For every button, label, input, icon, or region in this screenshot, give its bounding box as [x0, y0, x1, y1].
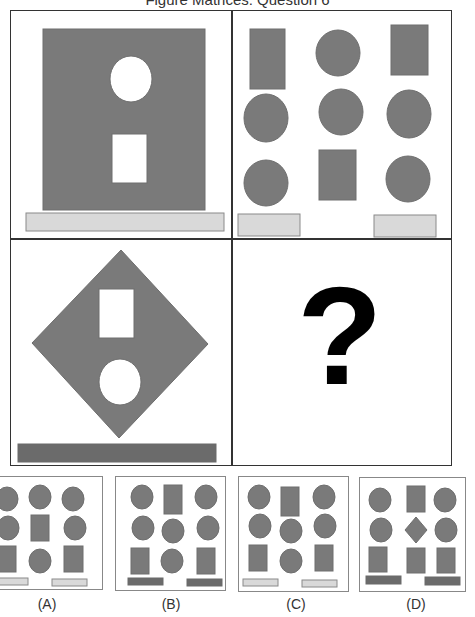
- polygon-shape: [405, 517, 427, 543]
- page-title: Figure Matrices: Question 6: [0, 0, 475, 8]
- bar-shape: [18, 444, 216, 462]
- bar-shape: [302, 580, 337, 587]
- ellipse-shape: [244, 94, 288, 142]
- option-c[interactable]: [238, 476, 349, 592]
- ellipse-shape: [280, 519, 302, 543]
- ellipse-shape: [195, 485, 217, 509]
- option-a[interactable]: [0, 476, 103, 590]
- bar-shape: [243, 579, 278, 586]
- option-figure: [116, 477, 227, 592]
- ellipse-shape: [29, 485, 51, 509]
- bar-shape: [26, 213, 224, 231]
- cell-figure: [11, 240, 231, 465]
- option-d-label[interactable]: (D): [396, 596, 436, 612]
- question-mark-icon: ?: [297, 266, 383, 406]
- ellipse-shape: [62, 487, 84, 511]
- rect-shape: [407, 548, 425, 573]
- bar-shape: [374, 215, 436, 237]
- ellipse-shape: [64, 516, 86, 540]
- ellipse-shape: [132, 516, 154, 540]
- ellipse-shape: [0, 516, 19, 540]
- ellipse-shape: [313, 485, 335, 509]
- ellipse-shape: [386, 156, 430, 202]
- ellipse-shape: [316, 30, 360, 76]
- cell-figure: [233, 11, 450, 238]
- rect-shape: [99, 289, 134, 338]
- rect-shape: [437, 548, 455, 573]
- bar-shape: [366, 576, 401, 584]
- rect-shape: [64, 546, 83, 572]
- ellipse-shape: [249, 514, 271, 538]
- option-figure: [360, 478, 467, 593]
- bar-shape: [187, 579, 222, 586]
- rect-shape: [281, 487, 299, 516]
- option-figure: [239, 477, 350, 593]
- ellipse-shape: [387, 90, 431, 138]
- matrix-cell-top-right: [233, 11, 450, 238]
- rect-shape: [250, 29, 285, 89]
- ellipse-shape: [244, 160, 288, 206]
- ellipse-shape: [314, 514, 336, 538]
- ellipse-shape: [434, 488, 456, 512]
- option-a-label[interactable]: (A): [27, 596, 67, 612]
- ellipse-shape: [435, 518, 457, 542]
- bar-shape: [238, 214, 300, 236]
- option-figure: [0, 477, 104, 591]
- bar-shape: [0, 578, 28, 585]
- rect-shape: [164, 485, 182, 514]
- ellipse-shape: [161, 549, 183, 573]
- ellipse-shape: [280, 549, 302, 573]
- ellipse-shape: [99, 359, 141, 405]
- rect-shape: [391, 25, 428, 75]
- rect-shape: [319, 150, 356, 200]
- bar-shape: [425, 577, 460, 585]
- ellipse-shape: [197, 516, 219, 540]
- polygon-shape: [32, 250, 208, 438]
- option-b[interactable]: [115, 476, 226, 591]
- rect-shape: [31, 515, 49, 541]
- option-d[interactable]: [359, 477, 466, 592]
- ellipse-shape: [248, 485, 270, 509]
- rect-shape: [112, 134, 147, 183]
- rect-shape: [407, 486, 425, 512]
- rect-shape: [0, 546, 16, 572]
- matrix-cell-missing: ?: [233, 240, 450, 465]
- rect-shape: [131, 548, 149, 574]
- ellipse-shape: [162, 519, 184, 543]
- ellipse-shape: [319, 89, 363, 135]
- option-b-label[interactable]: (B): [151, 596, 191, 612]
- bar-shape: [128, 578, 163, 585]
- ellipse-shape: [369, 488, 391, 512]
- matrix-cell-bottom-left: [11, 240, 231, 465]
- figure-matrix: ?: [10, 10, 452, 466]
- cell-figure: [11, 11, 231, 238]
- ellipse-shape: [29, 549, 51, 573]
- ellipse-shape: [370, 518, 392, 542]
- ellipse-shape: [110, 56, 152, 102]
- option-c-label[interactable]: (C): [276, 596, 316, 612]
- bar-shape: [52, 579, 87, 586]
- rect-shape: [249, 545, 267, 571]
- matrix-cell-top-left: [11, 11, 231, 238]
- ellipse-shape: [131, 485, 153, 509]
- rect-shape: [315, 545, 333, 571]
- rect-shape: [369, 547, 387, 572]
- ellipse-shape: [0, 487, 18, 511]
- rect-shape: [197, 548, 215, 574]
